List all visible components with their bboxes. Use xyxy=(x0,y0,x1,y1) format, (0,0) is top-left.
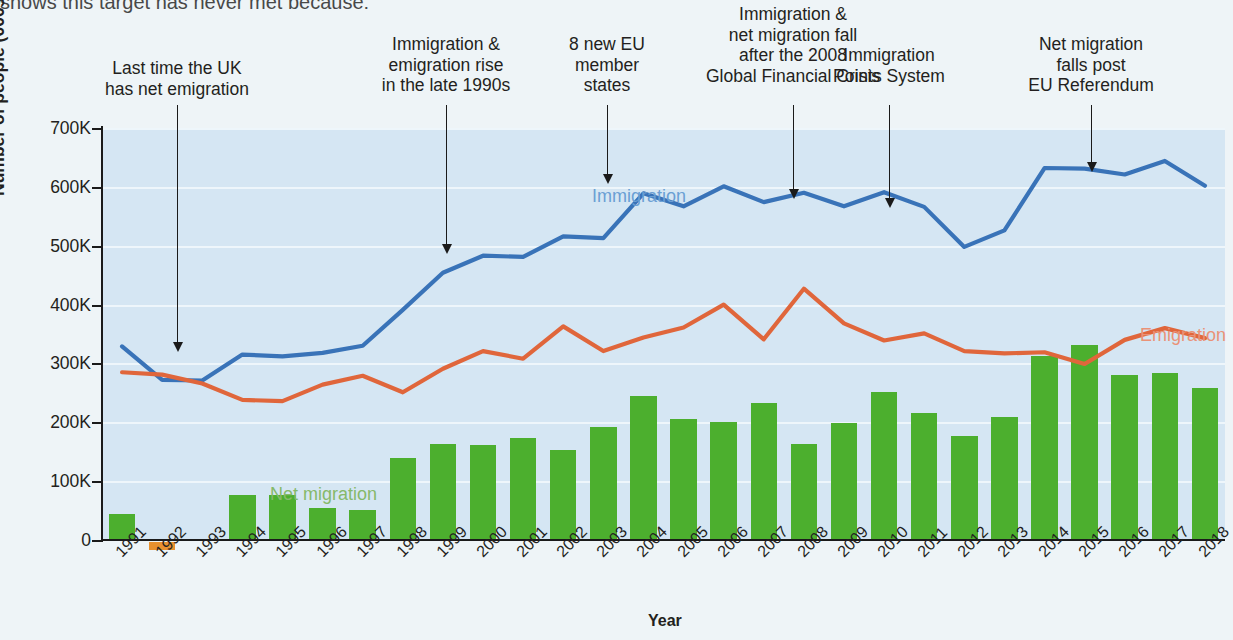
series-label-emigration: Emigration xyxy=(1140,325,1226,346)
y-axis-tick-label: 400K xyxy=(50,294,91,315)
y-axis-tick xyxy=(92,363,102,365)
ann-points-system-arrow-icon xyxy=(889,105,890,199)
y-axis-tick-label: 300K xyxy=(50,353,91,374)
x-axis-title: Year xyxy=(648,612,682,630)
y-axis-tick-label: 600K xyxy=(50,176,91,197)
ann-last-net-emigration-arrow-icon xyxy=(177,105,178,343)
y-axis-tick xyxy=(92,481,102,483)
ann-late-1990s-rise-arrow-icon xyxy=(446,105,447,245)
y-axis-tick-label: 500K xyxy=(50,235,91,256)
series-label-net-migration: Net migration xyxy=(270,484,377,505)
y-axis-tick xyxy=(92,128,102,130)
y-axis-tick xyxy=(92,540,102,542)
ann-2008-financial-crisis-arrow-icon xyxy=(793,105,794,190)
y-axis-tick xyxy=(92,187,102,189)
series-label-immigration: Immigration xyxy=(592,186,686,207)
y-axis-tick-label: 700K xyxy=(50,118,91,139)
ann-eu-referendum-arrow-icon xyxy=(1091,105,1092,163)
y-axis-tick-label: 0 xyxy=(81,530,91,551)
y-axis-tick-label: 200K xyxy=(50,412,91,433)
y-axis-tick xyxy=(92,305,102,307)
y-axis-tick-label: 100K xyxy=(50,471,91,492)
ann-eu-referendum-text: Net migration falls post EU Referendum xyxy=(921,34,1233,96)
emigration-line xyxy=(122,289,1205,401)
ann-8-new-eu-states-arrow-icon xyxy=(607,105,608,175)
y-axis-tick xyxy=(92,246,102,248)
y-axis-tick xyxy=(92,422,102,424)
